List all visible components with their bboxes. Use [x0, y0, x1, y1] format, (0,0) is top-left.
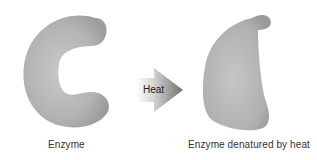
denatured-enzyme-shape	[203, 15, 271, 130]
enzyme-label: Enzyme	[48, 139, 85, 150]
heat-label: Heat	[143, 84, 164, 95]
diagram-canvas	[0, 0, 317, 160]
denatured-enzyme-label: Enzyme denatured by heat	[188, 139, 310, 150]
enzyme-shape	[23, 16, 109, 128]
